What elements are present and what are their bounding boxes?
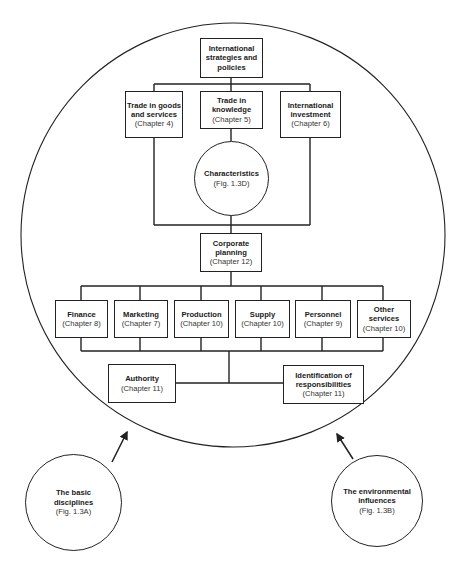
node-title: The basic disciplines [49, 488, 99, 507]
node-ref: (Fig. 1.3A) [56, 507, 91, 516]
node-title: International strategies and policies [201, 44, 262, 71]
node-title: Personnel [305, 310, 342, 319]
arrow-basic-disciplines [112, 432, 127, 462]
node-personnel: Personnel (Chapter 9) [295, 300, 351, 338]
node-ref: (Chapter 5) [212, 115, 250, 124]
node-title: Identification of responsibilities [284, 371, 363, 389]
node-title: International investment [281, 101, 340, 119]
node-ref: (Fig. 1.3D) [214, 179, 250, 188]
node-supply: Supply (Chapter 10) [235, 300, 290, 338]
node-international-investment: International investment (Chapter 6) [280, 91, 341, 138]
node-identification-of-responsibilities: Identification of responsibilities (Chap… [283, 365, 364, 404]
node-title: Corporate planning [201, 239, 261, 257]
node-ref: (Chapter 11) [302, 389, 344, 398]
node-international-strategies: International strategies and policies [200, 38, 263, 78]
node-finance: Finance (Chapter 8) [55, 300, 108, 338]
node-title: Other services [358, 305, 410, 323]
node-corporate-planning: Corporate planning (Chapter 12) [200, 233, 262, 272]
node-title: Supply [250, 310, 275, 319]
node-ref: (Chapter 11) [121, 384, 163, 393]
node-characteristics: Characteristics (Fig. 1.3D) [194, 141, 269, 216]
node-ref: (Chapter 10) [241, 319, 284, 328]
node-title: Characteristics [204, 169, 259, 178]
node-ref: (Chapter 10) [180, 319, 223, 328]
node-basic-disciplines: The basic disciplines (Fig. 1.3A) [25, 454, 122, 551]
node-ref: (Chapter 6) [291, 119, 329, 128]
node-environmental-influences: The environmental influences (Fig. 1.3B) [331, 455, 423, 547]
node-other-services: Other services (Chapter 10) [357, 300, 411, 338]
node-title: Authority [125, 374, 159, 383]
node-ref: (Chapter 4) [135, 119, 173, 128]
node-title: Finance [67, 310, 96, 319]
node-ref: (Chapter 10) [363, 324, 406, 333]
node-marketing: Marketing (Chapter 7) [114, 300, 168, 338]
node-title: Trade in knowledge [201, 96, 262, 114]
node-ref: (Fig. 1.3B) [359, 506, 394, 515]
node-title: The environmental influences [337, 487, 417, 506]
node-ref: (Chapter 8) [62, 319, 100, 328]
node-title: Production [181, 310, 221, 319]
node-ref: (Chapter 9) [304, 319, 342, 328]
node-trade-goods-services: Trade in goods and services (Chapter 4) [125, 91, 183, 138]
node-authority: Authority (Chapter 11) [108, 364, 176, 403]
node-ref: (Chapter 7) [122, 319, 160, 328]
arrow-environmental-influences [337, 434, 353, 459]
node-title: Marketing [123, 310, 159, 319]
node-production: Production (Chapter 10) [174, 300, 229, 338]
node-title: Trade in goods and services [126, 101, 182, 119]
node-trade-knowledge: Trade in knowledge (Chapter 5) [200, 91, 263, 129]
node-ref: (Chapter 12) [210, 257, 253, 266]
